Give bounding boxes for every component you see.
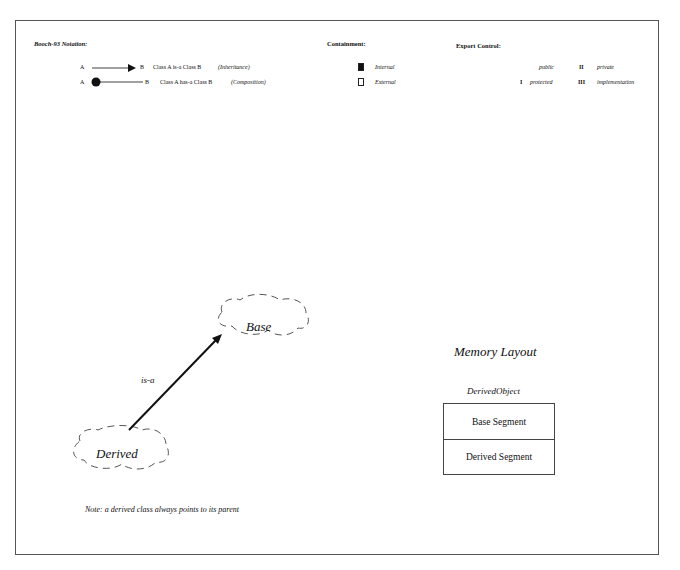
memory-layout-box: Base Segment Derived Segment [443, 403, 555, 475]
memory-layout-title: Memory Layout [454, 344, 537, 360]
base-segment: Base Segment [444, 404, 554, 439]
class-diagram-canvas [0, 0, 680, 570]
diagram-note: Note: a derived class always points to i… [85, 505, 239, 514]
derived-segment: Derived Segment [444, 439, 554, 474]
memory-object-name: DerivedObject [467, 386, 520, 396]
base-class-label: Base [246, 319, 271, 335]
derived-class-label: Derived [96, 446, 138, 462]
relation-label: is-a [141, 375, 155, 385]
